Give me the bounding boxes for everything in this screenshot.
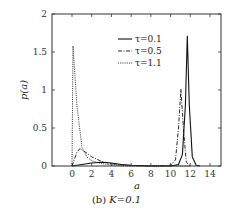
x-tick-label: 12 bbox=[185, 169, 196, 179]
caption-prefix: (b) bbox=[92, 194, 106, 205]
y-tick-label: 2 bbox=[41, 9, 47, 19]
x-tick-label: 6 bbox=[128, 169, 134, 179]
y-axis-label: p(a) bbox=[18, 80, 29, 100]
figure-caption: (b) K=0.1 bbox=[0, 194, 233, 205]
chart: 02468101214 00.511.52 τ=0.1τ=0.5τ=1.1 a … bbox=[0, 0, 233, 219]
x-tick-label: 14 bbox=[204, 169, 216, 179]
legend-label: τ=1.1 bbox=[135, 58, 162, 68]
y-axis-ticks: 00.511.52 bbox=[33, 9, 221, 171]
x-tick-label: 4 bbox=[109, 169, 115, 179]
y-tick-label: 1 bbox=[41, 85, 47, 95]
y-tick-label: 0.5 bbox=[33, 123, 48, 133]
series-line-3 bbox=[72, 46, 190, 166]
x-tick-label: 0 bbox=[69, 169, 75, 179]
x-tick-label: 2 bbox=[89, 169, 95, 179]
legend-label: τ=0.5 bbox=[135, 46, 162, 56]
legend: τ=0.1τ=0.5τ=1.1 bbox=[118, 34, 162, 68]
series-line-2 bbox=[72, 89, 190, 166]
x-tick-label: 8 bbox=[148, 169, 154, 179]
caption-math: K=0.1 bbox=[109, 194, 141, 205]
y-tick-label: 0 bbox=[41, 161, 47, 171]
x-tick-label: 10 bbox=[165, 169, 177, 179]
legend-label: τ=0.1 bbox=[135, 34, 162, 44]
x-axis-label: a bbox=[134, 180, 140, 191]
y-tick-label: 1.5 bbox=[33, 47, 48, 57]
